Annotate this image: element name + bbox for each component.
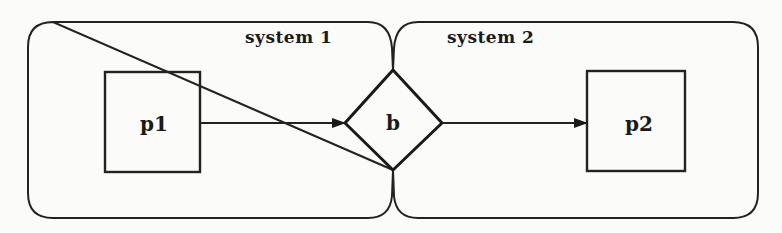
system-diagram: system 1 system 2 p1 b p2 [0,0,782,233]
node-p2: p2 [587,71,685,171]
system-2-region [393,22,758,218]
system-1-label: system 1 [245,27,332,47]
node-p2-label: p2 [625,112,653,136]
node-p1: p1 [105,72,200,172]
node-p1-label: p1 [140,112,168,136]
system-1-region [28,22,393,218]
node-b-label: b [386,111,400,135]
system-2-label: system 2 [447,27,534,47]
